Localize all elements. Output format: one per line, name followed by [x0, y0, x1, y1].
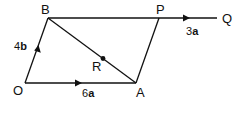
label-B: B	[41, 2, 50, 17]
vector-label-OB: 4b	[14, 40, 27, 52]
vector-label-PQ: 3a	[186, 25, 199, 37]
label-A: A	[136, 85, 145, 100]
label-R: R	[92, 59, 101, 74]
vector-label-OA: 6a	[82, 87, 95, 99]
label-O: O	[13, 83, 23, 98]
segment-AP	[136, 18, 159, 83]
arrow-icon-PQ	[183, 15, 190, 22]
label-P: P	[156, 2, 165, 17]
label-Q: Q	[222, 11, 232, 26]
arrow-icon-OA	[75, 80, 82, 87]
vector-diagram: B P Q O A R 4b 6a 3a	[0, 0, 238, 115]
